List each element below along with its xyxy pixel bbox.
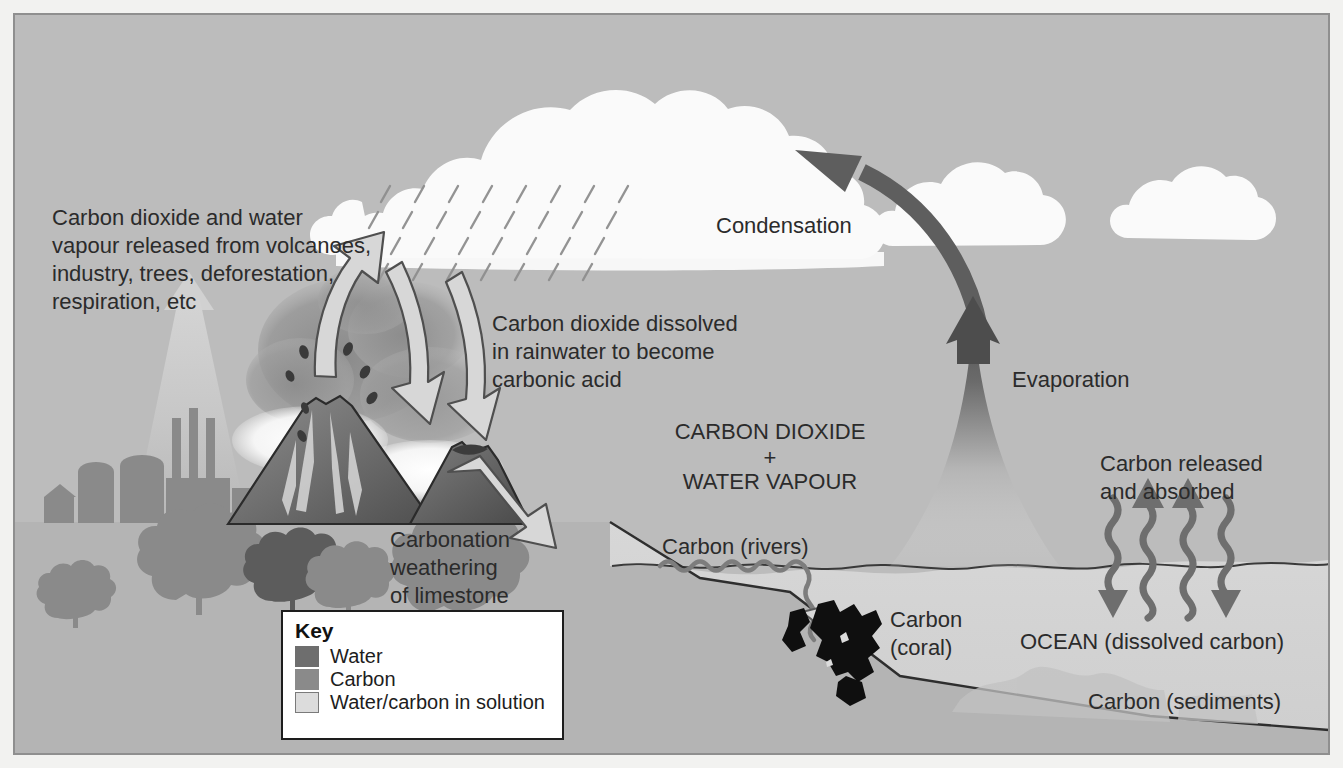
carbon-sediments-label: Carbon (sediments) <box>1088 688 1281 716</box>
atmosphere-label-line1: CARBON DIOXIDE <box>620 418 920 446</box>
emissions-label: Carbon dioxide and water vapour released… <box>52 204 371 317</box>
dissolved-label: Carbon dioxide dissolved in rainwater to… <box>492 310 738 394</box>
key-item-carbon: Carbon <box>295 668 552 690</box>
carbon-released-label: Carbon released and absorbed <box>1100 450 1263 506</box>
condensation-label: Condensation <box>716 212 852 240</box>
key-swatch-water <box>295 646 319 667</box>
carbon-cycle-diagram: Carbon dioxide and water vapour released… <box>0 0 1343 768</box>
atmosphere-label-line3: WATER VAPOUR <box>620 468 920 496</box>
carbon-rivers-label: Carbon (rivers) <box>662 533 809 561</box>
key-label-carbon: Carbon <box>330 668 396 690</box>
key-swatch-solution <box>295 692 319 713</box>
key-label-water: Water <box>330 645 383 667</box>
carbonation-label: Carbonation weathering of limestone <box>390 526 510 610</box>
key-swatch-carbon <box>295 669 319 690</box>
carbon-coral-label: Carbon (coral) <box>890 606 962 662</box>
key-item-solution: Water/carbon in solution <box>295 691 552 713</box>
evaporation-label: Evaporation <box>1012 366 1129 394</box>
key-item-water: Water <box>295 645 552 667</box>
key-label-solution: Water/carbon in solution <box>330 691 545 713</box>
key-title: Key <box>295 619 552 642</box>
key-legend: Key Water Carbon Water/carbon in solutio… <box>281 610 564 740</box>
ocean-label: OCEAN (dissolved carbon) <box>1020 628 1284 656</box>
